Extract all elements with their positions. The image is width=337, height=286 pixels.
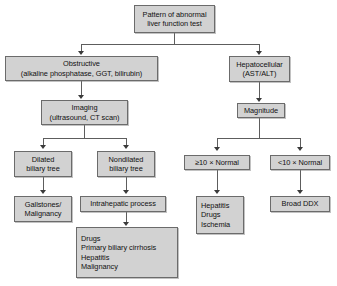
arrow-to-intrahepatic <box>123 190 129 194</box>
node-hepatocellular: Hepatocellular (AST/ALT) <box>229 56 290 82</box>
node-gallstones-line-1: Gallstones/ <box>25 200 61 209</box>
node-nondilated-biliary-tree: Nondilated biliary tree <box>97 151 155 177</box>
connector-hepatocellular-magnitude <box>259 81 260 98</box>
node-magnitude: Magnitude <box>237 103 285 118</box>
node-hepatitis-list-line-2: Drugs <box>201 210 220 219</box>
node-intrahepatic-causes-line-2: Primary biliary cirrhosis <box>81 243 156 252</box>
node-gallstones-line-2: Malignancy <box>25 209 62 218</box>
connector-magnitude-split <box>217 138 301 139</box>
node-nondilated-line-2: biliary tree <box>109 164 143 173</box>
node-broad-ddx-line-1: Broad DDX <box>282 199 319 208</box>
arrow-to-broad-ddx <box>297 190 303 194</box>
node-lt10-line-1: <10 × Normal <box>278 158 322 167</box>
node-ge10-line-1: ≥10 × Normal <box>195 158 239 167</box>
connector-magnitude-down <box>259 117 260 138</box>
node-dilated-biliary-tree: Dilated biliary tree <box>14 151 72 177</box>
node-ge-10-times-normal: ≥10 × Normal <box>184 155 250 170</box>
node-intrahepatic-causes-line-1: Drugs <box>81 234 100 243</box>
node-intrahepatic-causes: Drugs Primary biliary cirrhosis Hepatiti… <box>76 227 178 278</box>
node-hepatitis-drugs-ischemia: Hepatitis Drugs Ischemia <box>196 196 244 234</box>
node-hepatocellular-line-2: (AST/ALT) <box>243 69 277 78</box>
node-intrahepatic-process: Intrahepatic process <box>80 196 166 212</box>
node-hepatocellular-line-1: Hepatocellular <box>236 60 283 69</box>
connector-lt10-broad-ddx <box>300 170 301 191</box>
node-magnitude-line-1: Magnitude <box>244 106 278 115</box>
node-hepatitis-list-line-1: Hepatitis <box>201 201 229 210</box>
node-intrahepatic-causes-line-4: Malignancy <box>81 262 118 271</box>
connector-root-split <box>81 44 260 45</box>
connector-dilated-gallstones <box>43 177 44 191</box>
arrow-to-nondilated <box>123 145 129 149</box>
connector-ge10-hepatitis <box>217 170 218 191</box>
node-imaging: Imaging (ultrasound, CT scan) <box>41 100 128 125</box>
connector-nondilated-intrahepatic <box>126 177 127 191</box>
node-obstructive-line-1: Obstructive <box>63 59 100 68</box>
node-dilated-line-2: biliary tree <box>26 164 60 173</box>
node-lt-10-times-normal: <10 × Normal <box>270 155 330 170</box>
connector-obstructive-imaging <box>81 80 82 95</box>
arrow-to-ge10 <box>214 147 220 151</box>
node-dilated-line-1: Dilated <box>32 155 55 164</box>
node-intrahepatic-causes-line-3: Hepatitis <box>81 253 109 262</box>
connector-root-down <box>174 33 175 44</box>
arrow-to-gallstones <box>40 190 46 194</box>
arrow-to-hepatitis-list <box>214 190 220 194</box>
arrow-to-magnitude <box>256 98 262 102</box>
arrow-to-obstructive <box>78 51 84 55</box>
connector-imaging-split <box>43 138 127 139</box>
arrow-to-dilated <box>40 145 46 149</box>
arrow-to-intrahepatic-causes <box>123 222 129 226</box>
connector-imaging-down <box>84 124 85 138</box>
node-root: Pattern of abnormal liver function test <box>134 5 215 33</box>
node-obstructive: Obstructive (alkaline phosphatase, GGT, … <box>5 56 158 81</box>
flowchart-diagram: Pattern of abnormal liver function test … <box>0 0 337 286</box>
node-broad-ddx: Broad DDX <box>270 196 330 212</box>
arrow-to-lt10 <box>297 147 303 151</box>
node-gallstones-malignancy: Gallstones/ Malignancy <box>14 196 72 222</box>
node-imaging-line-1: Imaging <box>72 103 98 112</box>
node-intrahepatic-line-1: Intrahepatic process <box>90 199 156 208</box>
node-nondilated-line-1: Nondilated <box>109 155 144 164</box>
node-hepatitis-list-line-3: Ischemia <box>201 220 230 229</box>
node-root-line-1: Pattern of abnormal <box>143 10 207 19</box>
node-imaging-line-2: (ultrasound, CT scan) <box>50 113 120 122</box>
node-root-line-2: liver function test <box>147 19 202 28</box>
node-obstructive-line-2: (alkaline phosphatase, GGT, bilirubin) <box>21 69 142 78</box>
arrow-to-imaging <box>78 95 84 99</box>
arrow-to-hepatocellular <box>256 51 262 55</box>
